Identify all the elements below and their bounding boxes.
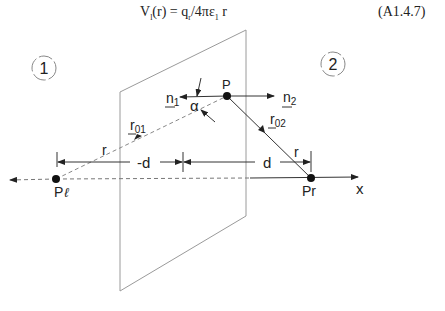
point-p-right	[307, 174, 315, 182]
x-axis-solid	[250, 177, 358, 178]
x-axis-label: x	[356, 180, 364, 197]
left-r-label: r	[102, 142, 107, 158]
svg-text:2: 2	[329, 56, 338, 73]
alpha-arrow-top	[197, 78, 201, 96]
svg-text:1: 1	[40, 60, 49, 77]
region-2-marker: 2	[321, 52, 345, 76]
alpha-arrow-bottom	[201, 110, 215, 122]
point-p-left	[52, 175, 60, 183]
n1-vector	[180, 96, 227, 97]
svg-text:n2: n2	[283, 89, 297, 107]
r02-label: r02	[268, 111, 286, 129]
point-p-label: P	[222, 77, 231, 92]
interface-diagram: 1 2 x α P Pℓ Pr n1 n2 r01 r02	[0, 0, 445, 311]
svg-text:n1: n1	[166, 90, 180, 108]
n2-label: n2	[282, 89, 297, 107]
point-p	[223, 92, 231, 100]
region-1-marker: 1	[32, 56, 56, 80]
alpha-label: α	[190, 97, 199, 114]
svg-text:r01: r01	[130, 117, 146, 135]
svg-text:r02: r02	[270, 111, 286, 129]
right-r-label: r	[294, 144, 299, 160]
d-label: d	[263, 154, 271, 171]
point-p-left-label: Pℓ	[54, 184, 69, 200]
neg-d-label: -d	[137, 154, 150, 171]
n1-label: n1	[165, 90, 180, 108]
r02-arrowhead	[258, 125, 265, 133]
x-axis-dashed	[56, 178, 250, 179]
point-p-right-label: Pr	[302, 183, 316, 199]
x-axis-left-arrow	[10, 179, 56, 180]
r01-label: r01	[128, 117, 146, 135]
